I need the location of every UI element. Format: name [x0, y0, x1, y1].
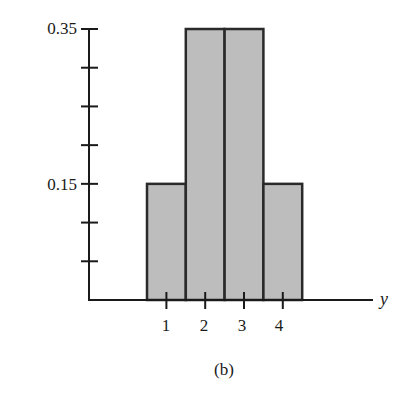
bar-2	[186, 29, 225, 300]
x-tick-label-3: 3	[232, 317, 252, 334]
x-tick-label-2: 2	[194, 317, 214, 334]
figure-caption: (b)	[204, 361, 244, 378]
histogram-plot	[0, 0, 409, 405]
x-tick-label-1: 1	[156, 317, 176, 334]
x-axis-label: y	[380, 290, 388, 308]
bar-4	[263, 184, 302, 300]
bar-1	[147, 184, 186, 300]
y-tick-label-0.15: 0.15	[27, 176, 77, 193]
bars	[147, 29, 302, 300]
y-tick-label-0.35: 0.35	[27, 20, 77, 37]
x-tick-label-4: 4	[269, 317, 289, 334]
bar-3	[225, 29, 264, 300]
